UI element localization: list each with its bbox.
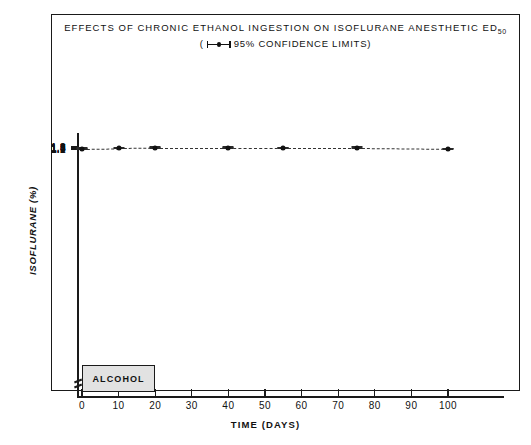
y-tick-label: 1.9 [51, 142, 66, 153]
x-tick [374, 389, 375, 397]
data-point [226, 145, 231, 150]
x-tick-label: 10 [113, 400, 125, 411]
alcohol-period-box: ALCOHOL [82, 365, 155, 392]
data-point [354, 145, 359, 150]
line-segment [228, 148, 283, 149]
x-tick [411, 389, 412, 397]
x-tick [447, 389, 448, 397]
data-point [281, 145, 286, 150]
x-tick-label: 20 [149, 400, 161, 411]
y-axis-title: ISOFLURANE (%) [27, 151, 38, 311]
alcohol-period-label: ALCOHOL [92, 374, 144, 384]
data-point [116, 145, 121, 150]
line-segment [283, 148, 356, 149]
x-tick-label: 50 [259, 400, 271, 411]
x-tick [338, 389, 339, 397]
data-point [153, 145, 158, 150]
x-tick-label: 0 [79, 400, 85, 411]
x-tick-label: 100 [439, 400, 457, 411]
line-segment [356, 148, 448, 150]
x-tick-label: 40 [222, 400, 234, 411]
data-point [80, 146, 85, 151]
x-axis-title: TIME (DAYS) [0, 419, 531, 430]
x-tick-label: 90 [405, 400, 417, 411]
x-tick [301, 389, 302, 397]
figure-root: EFFECTS OF CHRONIC ETHANOL INGESTION ON … [0, 0, 531, 445]
x-tick-label: 30 [186, 400, 198, 411]
x-tick [228, 389, 229, 397]
x-axis-line [77, 396, 504, 398]
x-tick-label: 60 [296, 400, 308, 411]
line-segment [155, 148, 228, 149]
x-tick-label: 70 [332, 400, 344, 411]
plot-area: 1.11.21.31.41.51.61.71.81.9 010203040506… [0, 0, 531, 445]
x-tick [191, 389, 192, 397]
y-axis-line [77, 133, 79, 397]
x-tick [264, 389, 265, 397]
x-tick-label: 80 [369, 400, 381, 411]
data-point [446, 146, 451, 151]
